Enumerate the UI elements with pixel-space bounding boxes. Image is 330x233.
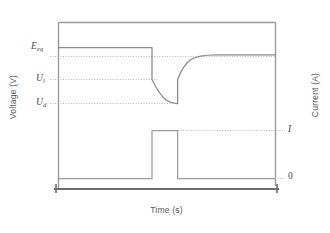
tick-label-ud: Ud xyxy=(36,97,46,107)
tick-symbol-ul: U xyxy=(36,73,43,83)
tick-label-current-i: I xyxy=(288,124,291,134)
figure-canvas: Voltage (V) Current (A) Time (s) Eeq Ul … xyxy=(0,0,330,233)
tick-label-eeq: Eeq xyxy=(31,41,43,51)
y-axis-right-title: Current (A) xyxy=(310,59,320,131)
tick-subscript-ud: d xyxy=(43,101,46,108)
tick-label-current-zero: 0 xyxy=(288,171,293,181)
tick-symbol-eeq: E xyxy=(31,41,37,51)
tick-label-ul: Ul xyxy=(36,73,45,83)
y-axis-left-title: Voltage (V) xyxy=(8,61,18,133)
tick-subscript-ul: l xyxy=(43,77,45,84)
tick-subscript-eeq: eq xyxy=(37,45,43,52)
current-curve xyxy=(59,131,276,179)
voltage-trace xyxy=(59,48,276,104)
plot-svg xyxy=(0,0,330,233)
x-axis-title: Time (s) xyxy=(58,205,275,215)
gridlines xyxy=(50,57,285,179)
tick-symbol-ud: U xyxy=(36,97,43,107)
voltage-curve xyxy=(59,48,276,104)
current-trace xyxy=(59,131,276,179)
